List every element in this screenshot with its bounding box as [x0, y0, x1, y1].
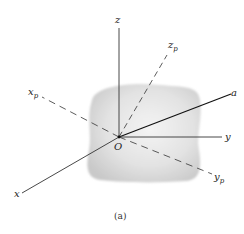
xp-label: xp [28, 86, 39, 100]
rigid-body-shape [87, 84, 200, 182]
zp-label: zp [167, 39, 178, 53]
x-label: x [14, 188, 20, 199]
figure-caption: (a) [114, 211, 126, 221]
a-label: a [231, 87, 237, 98]
principal-axes-diagram: z zp xp a y yp x O (a) [0, 0, 244, 234]
y-label: y [224, 131, 231, 142]
z-label: z [114, 14, 121, 25]
origin-point [118, 136, 121, 139]
yp-label: yp [213, 171, 225, 185]
origin-label: O [114, 141, 122, 152]
